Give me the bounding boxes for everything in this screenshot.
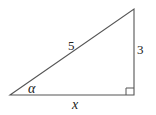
right-angle-marker bbox=[126, 88, 134, 95]
adjacent-side-label: x bbox=[71, 97, 79, 112]
triangle-diagram: 5 3 x α bbox=[0, 0, 156, 115]
angle-alpha-label: α bbox=[28, 81, 36, 96]
opposite-side-label: 3 bbox=[137, 42, 144, 57]
hypotenuse-label: 5 bbox=[68, 38, 75, 53]
